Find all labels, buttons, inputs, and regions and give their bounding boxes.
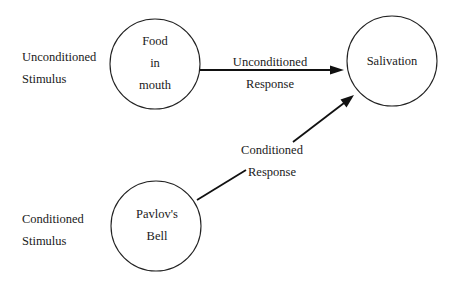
arrow-head-icon	[341, 95, 355, 108]
label-conditioned-stimulus: Conditioned Stimulus	[22, 208, 84, 252]
edge-label-unconditioned-response: Unconditioned Response	[233, 51, 307, 95]
edge-label-line: Response	[241, 161, 303, 183]
node-line: Bell	[136, 225, 178, 247]
edge-label-line: Response	[233, 73, 307, 95]
node-line: mouth	[139, 74, 171, 96]
node-line: Pavlov's	[136, 203, 178, 225]
edge-label-line: Conditioned	[241, 139, 303, 161]
label-line: Stimulus	[22, 68, 96, 90]
arrow-head-icon	[330, 66, 344, 75]
label-line: Stimulus	[22, 230, 84, 252]
label-line: Unconditioned	[22, 46, 96, 68]
node-line: Salivation	[367, 50, 418, 72]
edge-label-conditioned-response: Conditioned Response	[241, 139, 303, 183]
node-food-in-mouth-label: Food in mouth	[139, 30, 171, 96]
node-line: in	[139, 52, 171, 74]
label-unconditioned-stimulus: Unconditioned Stimulus	[22, 46, 96, 90]
node-pavlovs-bell-label: Pavlov's Bell	[136, 203, 178, 247]
label-line: Conditioned	[22, 208, 84, 230]
node-line: Food	[139, 30, 171, 52]
node-salivation-label: Salivation	[367, 50, 418, 72]
edge-label-line: Unconditioned	[233, 51, 307, 73]
